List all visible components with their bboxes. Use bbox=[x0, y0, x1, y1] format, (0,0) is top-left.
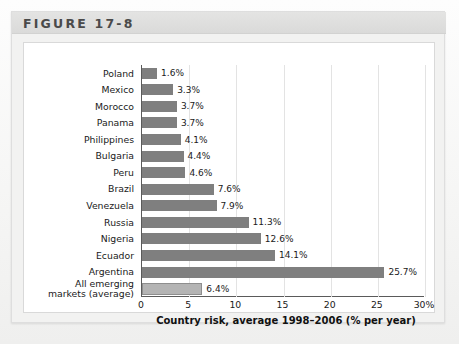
bar-bulgaria bbox=[142, 151, 184, 162]
bar-venezuela bbox=[142, 200, 217, 211]
bar-value-label: 4.6% bbox=[189, 168, 212, 178]
bar-value-label: 1.6% bbox=[161, 68, 184, 78]
bar-row: 3.7% bbox=[142, 98, 425, 115]
bar-value-label: 11.3% bbox=[253, 217, 282, 227]
bar-value-label: 3.3% bbox=[177, 85, 200, 95]
bar-row: 3.7% bbox=[142, 115, 425, 132]
bar-nigeria bbox=[142, 233, 261, 244]
bar-value-label: 6.4% bbox=[206, 284, 229, 294]
x-tick-25: 25 bbox=[371, 299, 383, 310]
bar-row: 25.7% bbox=[142, 264, 425, 281]
category-label: Philippines bbox=[24, 131, 138, 148]
bar-value-label: 4.1% bbox=[185, 135, 208, 145]
bar-all-emerging-markets-average bbox=[142, 283, 202, 295]
bar-poland bbox=[142, 68, 157, 79]
bar-value-label: 3.7% bbox=[181, 118, 204, 128]
category-label: Poland bbox=[24, 65, 138, 82]
category-label: Russia bbox=[24, 214, 138, 231]
bar-ecuador bbox=[142, 250, 275, 261]
bar-philippines bbox=[142, 134, 181, 145]
x-tick-20: 20 bbox=[324, 299, 336, 310]
figure-page: FIGURE 17-8 PolandMexicoMoroccoPanamaPhi… bbox=[0, 0, 459, 344]
category-label: Panama bbox=[24, 115, 138, 132]
bar-mexico bbox=[142, 84, 173, 95]
category-label: Peru bbox=[24, 164, 138, 181]
category-label: Ecuador bbox=[24, 247, 138, 264]
bar-row: 4.6% bbox=[142, 164, 425, 181]
bar-value-label: 7.9% bbox=[221, 201, 244, 211]
gridline-30 bbox=[425, 65, 426, 297]
bar-brazil bbox=[142, 184, 214, 195]
bar-argentina bbox=[142, 267, 384, 278]
category-label: Morocco bbox=[24, 98, 138, 115]
plot-area: 1.6%3.3%3.7%3.7%4.1%4.4%4.6%7.6%7.9%11.3… bbox=[141, 65, 424, 297]
bar-row: 7.9% bbox=[142, 198, 425, 215]
x-tick-10: 10 bbox=[229, 299, 241, 310]
bar-row: 12.6% bbox=[142, 231, 425, 248]
category-label: Bulgaria bbox=[24, 148, 138, 165]
bar-row: 4.4% bbox=[142, 148, 425, 165]
bar-value-label: 25.7% bbox=[388, 267, 417, 277]
bar-row: 3.3% bbox=[142, 82, 425, 99]
bar-row: 1.6% bbox=[142, 65, 425, 82]
bar-row: 14.1% bbox=[142, 247, 425, 264]
category-label: Brazil bbox=[24, 181, 138, 198]
bar-row: 6.4% bbox=[142, 280, 425, 297]
figure-title: FIGURE 17-8 bbox=[23, 16, 135, 31]
x-tick-5: 5 bbox=[185, 299, 191, 310]
bar-value-label: 12.6% bbox=[265, 234, 294, 244]
bar-rows: 1.6%3.3%3.7%3.7%4.1%4.4%4.6%7.6%7.9%11.3… bbox=[142, 65, 425, 297]
figure-header-band: FIGURE 17-8 bbox=[12, 12, 446, 34]
x-axis-title: Country risk, average 1998–2006 (% per y… bbox=[141, 315, 431, 326]
category-label: Nigeria bbox=[24, 231, 138, 248]
x-tick-30: 30% bbox=[414, 299, 435, 310]
bar-row: 11.3% bbox=[142, 214, 425, 231]
category-label: Mexico bbox=[24, 82, 138, 99]
bar-value-label: 14.1% bbox=[279, 250, 308, 260]
bar-peru bbox=[142, 167, 185, 178]
bar-russia bbox=[142, 217, 249, 228]
x-tick-0: 0 bbox=[138, 299, 144, 310]
bar-value-label: 7.6% bbox=[218, 184, 241, 194]
chart-panel: PolandMexicoMoroccoPanamaPhilippinesBulg… bbox=[23, 42, 435, 313]
category-axis-labels: PolandMexicoMoroccoPanamaPhilippinesBulg… bbox=[24, 65, 138, 297]
bar-morocco bbox=[142, 101, 177, 112]
bar-value-label: 4.4% bbox=[188, 151, 211, 161]
bar-row: 7.6% bbox=[142, 181, 425, 198]
bar-row: 4.1% bbox=[142, 131, 425, 148]
category-label: All emergingmarkets (average) bbox=[24, 280, 138, 297]
bar-panama bbox=[142, 117, 177, 128]
x-axis-tick-labels: 051015202530% bbox=[141, 299, 441, 313]
figure-card: FIGURE 17-8 PolandMexicoMoroccoPanamaPhi… bbox=[11, 11, 445, 323]
x-tick-15: 15 bbox=[277, 299, 289, 310]
bar-value-label: 3.7% bbox=[181, 101, 204, 111]
category-label: Venezuela bbox=[24, 198, 138, 215]
